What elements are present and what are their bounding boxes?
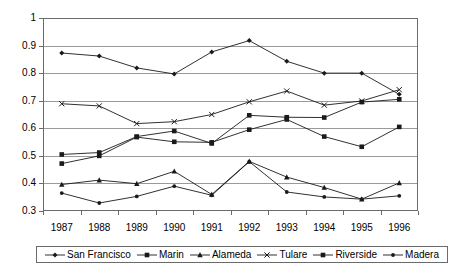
legend-item-alameda[interactable]: Alameda [187, 250, 254, 260]
x-tick-mark [118, 211, 119, 215]
legend-label: Alameda [212, 250, 251, 260]
x-tick-mark [43, 211, 44, 215]
legend-label: Marin [159, 250, 184, 260]
legend-item-marin[interactable]: Marin [134, 250, 187, 260]
gridline [44, 73, 417, 74]
chart-container: 0.30.40.50.60.70.80.91 19871988198919901… [0, 0, 449, 273]
x-tick-label: 1996 [377, 223, 421, 233]
chart-legend: San FranciscoMarinAlamedaTulareRiverside… [36, 246, 448, 263]
diamond-marker-icon [45, 250, 65, 260]
legend-label: Tulare [279, 250, 307, 260]
plot-area [43, 18, 418, 211]
y-tick-label: 0.5 [2, 151, 36, 161]
y-tick-label: 0.4 [2, 178, 36, 188]
legend-label: Madera [405, 250, 439, 260]
y-tick-label: 0.8 [2, 68, 36, 78]
gridline [44, 156, 417, 157]
x-tick-mark [418, 211, 419, 215]
gridline [44, 46, 417, 47]
legend-item-san-francisco[interactable]: San Francisco [42, 250, 134, 260]
legend-item-madera[interactable]: Madera [380, 250, 442, 260]
x-tick-mark [306, 211, 307, 215]
gridline [44, 128, 417, 129]
legend-item-riverside[interactable]: Riverside [310, 250, 380, 260]
square-marker-icon [313, 250, 333, 260]
legend-label: San Francisco [67, 250, 131, 260]
legend-label: Riverside [335, 250, 377, 260]
y-tick-label: 0.6 [2, 123, 36, 133]
square-marker-icon [137, 250, 157, 260]
cross-marker-icon [257, 250, 277, 260]
gridline [44, 183, 417, 184]
dot-marker-icon [383, 250, 403, 260]
triangle-marker-icon [190, 250, 210, 260]
x-tick-mark [231, 211, 232, 215]
x-tick-mark [343, 211, 344, 215]
gridline [44, 101, 417, 102]
x-tick-mark [381, 211, 382, 215]
x-tick-mark [268, 211, 269, 215]
x-tick-mark [193, 211, 194, 215]
x-tick-mark [156, 211, 157, 215]
y-tick-label: 1 [2, 13, 36, 23]
legend-item-tulare[interactable]: Tulare [254, 250, 310, 260]
y-tick-label: 0.9 [2, 41, 36, 51]
x-tick-mark [81, 211, 82, 215]
y-tick-label: 0.3 [2, 206, 36, 216]
y-tick-label: 0.7 [2, 96, 36, 106]
